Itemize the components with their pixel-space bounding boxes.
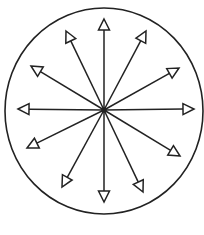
arrow-down — [99, 110, 110, 202]
open-triangle-arrowhead-icon — [168, 146, 180, 156]
open-triangle-arrowhead-icon — [167, 68, 179, 78]
open-triangle-arrowhead-icon — [62, 175, 72, 187]
open-triangle-arrowhead-icon — [136, 31, 146, 43]
open-triangle-arrowhead-icon — [99, 191, 110, 202]
arrow-shaft — [104, 109, 183, 110]
arrow-lower-left-1 — [62, 110, 104, 187]
radial-arrow-diagram — [0, 0, 204, 235]
arrow-left — [18, 104, 104, 115]
center-hub — [101, 107, 107, 113]
open-triangle-arrowhead-icon — [183, 104, 194, 115]
arrow-shaft — [29, 109, 104, 110]
arrow-lower-left-2 — [27, 110, 104, 148]
arrow-shaft — [67, 110, 104, 177]
open-triangle-arrowhead-icon — [18, 104, 29, 115]
arrow-up — [99, 19, 110, 110]
open-triangle-arrowhead-icon — [99, 19, 110, 30]
open-triangle-arrowhead-icon — [27, 138, 39, 148]
open-triangle-arrowhead-icon — [133, 180, 143, 192]
open-triangle-arrowhead-icon — [31, 66, 43, 76]
arrow-shaft — [37, 110, 104, 143]
open-triangle-arrowhead-icon — [66, 31, 76, 43]
arrow-right — [104, 104, 194, 115]
